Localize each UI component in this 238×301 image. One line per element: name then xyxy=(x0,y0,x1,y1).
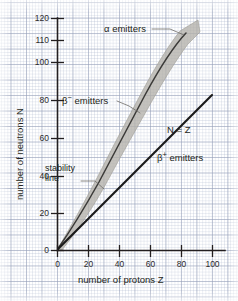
x-tick-label-60: 60 xyxy=(140,259,161,269)
nuclear-stability-chart: 120 110 100 80 60 40 20 0 0 20 40 60 80 … xyxy=(0,0,238,301)
stable-nuclei-band xyxy=(57,20,200,250)
annotation-alpha-emitters: α emitters xyxy=(104,23,146,34)
y-tick-label-20: 20 xyxy=(17,208,49,218)
y-tick-label-120: 120 xyxy=(17,13,49,23)
x-tick-label-20: 20 xyxy=(78,259,99,269)
annotation-n-equals-z: N = Z xyxy=(167,124,191,135)
annotation-stability-line: stability line xyxy=(45,164,89,183)
y-axis-title: number of neutrons N xyxy=(14,108,25,200)
x-tick-label-40: 40 xyxy=(109,259,130,269)
x-axis-title: number of protons Z xyxy=(78,274,164,285)
stability-line-text-2: line xyxy=(45,174,89,184)
beta-plus-text: emitters xyxy=(167,152,203,163)
chart-plot-area xyxy=(0,0,238,301)
y-tick-label-0: 0 xyxy=(17,245,49,255)
x-tick-label-0: 0 xyxy=(47,259,68,269)
y-tick-label-100: 100 xyxy=(17,57,49,67)
y-tick-label-80: 80 xyxy=(17,95,49,105)
beta-minus-text: emitters xyxy=(72,95,108,106)
x-tick-label-100: 100 xyxy=(201,259,224,269)
y-tick-label-110: 110 xyxy=(17,35,49,45)
x-tick-label-80: 80 xyxy=(171,259,192,269)
annotation-beta-plus-emitters: β+ emitters xyxy=(157,152,203,163)
annotation-beta-minus-emitters: β− emitters xyxy=(62,95,108,106)
